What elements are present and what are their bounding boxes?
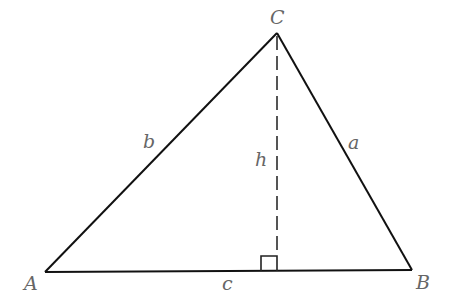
- side-a: [277, 33, 412, 270]
- vertex-label-a: A: [22, 272, 38, 294]
- side-b: [45, 33, 277, 272]
- right-angle-marker: [261, 256, 277, 271]
- triangle-diagram: A B C a b c h: [0, 0, 449, 306]
- vertex-label-b: B: [415, 271, 430, 293]
- vertex-label-c: C: [270, 6, 285, 28]
- side-label-a: a: [348, 131, 359, 153]
- side-label-c: c: [222, 272, 233, 294]
- altitude-label-h: h: [255, 148, 267, 170]
- side-label-b: b: [143, 130, 155, 152]
